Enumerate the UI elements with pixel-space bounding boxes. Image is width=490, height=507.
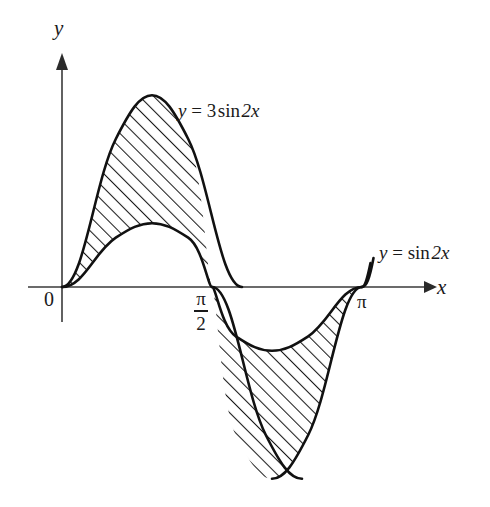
- x-axis: [28, 281, 437, 293]
- shaded-region-upper: [62, 95, 212, 287]
- fraction-numerator: π: [194, 289, 208, 309]
- curve-label-outer-argument: 2x: [242, 100, 260, 121]
- origin-label: 0: [44, 289, 54, 309]
- fraction-pi-over-2: π 2: [194, 289, 208, 333]
- fraction-denominator: 2: [194, 313, 208, 333]
- figure-container: y x 0 π 2 π y = 3 sin 2x y = sin 2x: [0, 0, 490, 507]
- curve-label-3sin2x: y = 3 sin 2x: [178, 101, 259, 120]
- x-tick-label-pi-over-2: π 2: [190, 289, 212, 333]
- axis-label-y: y: [54, 18, 63, 39]
- curve-label-outer-equals: =: [186, 100, 206, 121]
- x-tick-label-pi: π: [357, 292, 367, 311]
- axis-label-x: x: [437, 277, 446, 298]
- curve-label-inner-equals: =: [387, 242, 407, 263]
- y-axis: [56, 53, 68, 322]
- curve-label-sin2x: y = sin 2x: [379, 243, 449, 262]
- curve-label-inner-function-name: sin: [408, 242, 430, 263]
- curve-label-outer-coefficient: 3: [207, 100, 217, 121]
- shaded-region-lower: [212, 287, 362, 479]
- curve-label-inner-argument: 2x: [431, 242, 449, 263]
- fraction-bar: [194, 310, 208, 312]
- curve-label-outer-function-name: sin: [218, 100, 240, 121]
